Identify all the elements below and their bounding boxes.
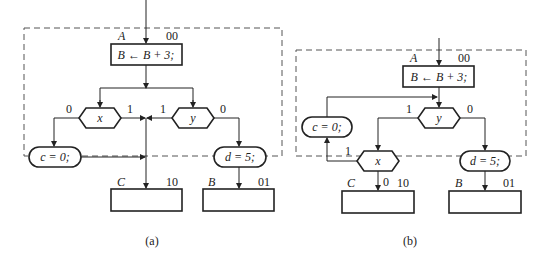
asm-charts: A 00 B ← B + 3; x 0 1 y 1 0 c = 0; d = 5…: [0, 0, 545, 261]
caption-a: (a): [145, 234, 158, 248]
decision-y-label: y: [435, 111, 442, 125]
caption-b: (b): [403, 234, 417, 248]
output-d-label: d = 5;: [225, 150, 255, 164]
flow-arrow: [460, 118, 485, 150]
state-c-box: [111, 189, 182, 211]
flow-line: [100, 88, 193, 106]
output-d-label: d = 5;: [470, 154, 500, 168]
x-true-label: 1: [345, 144, 351, 158]
diagram-b: A 00 B ← B + 3; y 1 0 c = 0; x 1 0 d = 5…: [296, 38, 526, 248]
y-true-label: 1: [406, 102, 412, 116]
x-true-label: 1: [127, 102, 133, 116]
flow-arrow: [327, 138, 357, 161]
y-true-label: 1: [160, 102, 166, 116]
flow-arrow: [214, 118, 239, 146]
state-c-name: C: [117, 175, 126, 189]
y-false-label: 0: [220, 102, 226, 116]
output-c-label: c = 0;: [40, 150, 69, 164]
state-c-name: C: [347, 176, 356, 190]
state-b-box: [203, 189, 274, 211]
state-a-code: 00: [458, 51, 470, 65]
state-c-code: 10: [397, 176, 409, 190]
state-c-box: [342, 191, 414, 213]
state-b-name: B: [455, 176, 463, 190]
state-b-box: [449, 191, 521, 213]
x-false-label: 0: [66, 102, 72, 116]
state-b-code: 01: [503, 176, 515, 190]
decision-x-label: x: [96, 111, 103, 125]
decision-x-label: x: [374, 154, 381, 168]
y-false-label: 0: [467, 102, 473, 116]
state-a-action: B ← B + 3;: [118, 48, 175, 62]
state-a-action: B ← B + 3;: [411, 70, 468, 84]
state-c-code: 10: [166, 175, 178, 189]
state-a-code: 00: [166, 29, 178, 43]
state-b-name: B: [208, 175, 216, 189]
state-b-code: 01: [258, 175, 270, 189]
diagram-a: A 00 B ← B + 3; x 0 1 y 1 0 c = 0; d = 5…: [24, 0, 282, 248]
state-a-name: A: [409, 51, 418, 65]
decision-y-label: y: [189, 111, 196, 125]
x-false-label: 0: [383, 175, 389, 189]
flow-arrow: [378, 118, 418, 150]
output-c-label: c = 0;: [312, 120, 341, 134]
state-a-name: A: [117, 29, 126, 43]
flow-arrow: [54, 118, 79, 146]
